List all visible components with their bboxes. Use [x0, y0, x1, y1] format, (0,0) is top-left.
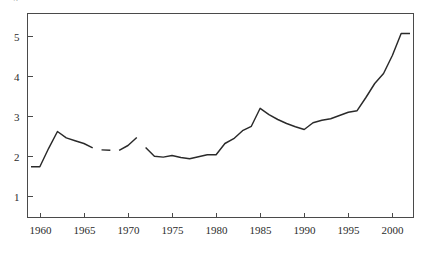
y-tick-label: 3	[14, 111, 20, 123]
figure-container: Figure 12345 196019651970197519801985199…	[0, 0, 430, 268]
y-tick-label: 5	[14, 31, 20, 43]
data-series-group	[31, 34, 410, 167]
y-tick-label: 4	[14, 71, 20, 83]
x-axis-ticks: 196019651970197519801985199019952000	[30, 213, 405, 236]
data-line-segment	[119, 138, 137, 151]
plot-area-border	[28, 14, 414, 218]
y-tick-label: 2	[14, 151, 20, 163]
plot-frame	[28, 14, 414, 218]
x-tick-label: 1980	[206, 224, 229, 236]
x-tick-label: 2000	[382, 224, 405, 236]
line-chart: 12345 1960196519701975198019851990199520…	[0, 0, 430, 268]
y-tick-label: 1	[14, 191, 20, 203]
y-axis-ticks: 12345	[14, 31, 33, 203]
x-tick-label: 1960	[30, 224, 53, 236]
data-line-segment	[31, 132, 93, 167]
x-tick-label: 1990	[294, 224, 317, 236]
x-tick-label: 1965	[74, 224, 97, 236]
x-tick-label: 1975	[162, 224, 185, 236]
x-tick-label: 1970	[118, 224, 141, 236]
figure-caption-clipped: Figure	[6, 0, 29, 1]
data-line-segment	[146, 34, 410, 159]
x-tick-label: 1985	[250, 224, 273, 236]
x-tick-label: 1995	[338, 224, 361, 236]
